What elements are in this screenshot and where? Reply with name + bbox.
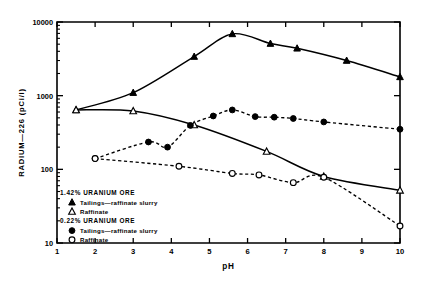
- legend-entry-label: Tailings—raffinate slurry: [80, 199, 158, 206]
- data-point-filled-circle: [321, 119, 327, 125]
- data-point-open-circle: [256, 172, 262, 178]
- legend-entry-label: Raffinate: [80, 236, 109, 243]
- series-line-open-triangle: [76, 110, 400, 191]
- chart-canvas: 1234567891010100100010000pHRADIUM—226 (p…: [0, 0, 427, 282]
- data-point-filled-circle: [397, 126, 403, 132]
- data-point-filled-circle: [229, 107, 235, 113]
- data-point-filled-triangle: [191, 53, 198, 59]
- figure-radium226-vs-ph: 1234567891010100100010000pHRADIUM—226 (p…: [0, 0, 427, 282]
- legend-marker-filled-triangle: [69, 199, 76, 205]
- x-axis-title: pH: [222, 262, 235, 271]
- x-tick-label: 3: [131, 247, 135, 256]
- data-point-filled-circle: [146, 139, 152, 145]
- x-tick-label: 10: [396, 247, 404, 256]
- data-point-open-circle: [176, 163, 182, 169]
- x-tick-label: 5: [207, 247, 212, 256]
- legend-heading: 0.22% URANIUM ORE: [60, 217, 135, 224]
- x-tick-label: 4: [169, 247, 174, 256]
- legend-marker-open-triangle: [69, 208, 76, 214]
- data-point-filled-circle: [290, 116, 296, 122]
- plot-frame: [57, 22, 400, 243]
- legend-heading: 1.42% URANIUM ORE: [60, 189, 135, 196]
- x-tick-label: 9: [360, 247, 364, 256]
- data-point-open-circle: [397, 223, 403, 229]
- y-axis-title: RADIUM—226 (pCi/l): [17, 88, 26, 177]
- x-tick-label: 1: [55, 247, 60, 256]
- series-line-filled-circle: [95, 110, 400, 159]
- series-line-filled-triangle: [76, 34, 400, 110]
- data-point-filled-circle: [210, 113, 216, 119]
- legend-marker-filled-circle: [69, 228, 75, 234]
- data-point-open-circle: [92, 156, 98, 162]
- legend-entry-label: Raffinate: [80, 208, 109, 215]
- legend-marker-open-circle: [69, 237, 75, 243]
- x-tick-label: 2: [93, 247, 97, 256]
- data-point-open-circle: [321, 174, 327, 180]
- y-tick-label: 10: [45, 239, 53, 248]
- legend-entry-label: Tailings—raffinate slurry: [80, 227, 158, 234]
- x-tick-label: 8: [322, 247, 326, 256]
- x-tick-label: 6: [245, 247, 249, 256]
- y-tick-label: 1000: [37, 92, 53, 101]
- data-point-filled-circle: [187, 122, 193, 128]
- data-point-filled-circle: [271, 114, 277, 120]
- data-point-open-circle: [229, 171, 235, 177]
- y-tick-label: 10000: [32, 18, 53, 27]
- data-point-open-circle: [290, 180, 296, 186]
- series-line-open-circle: [95, 159, 400, 226]
- data-point-filled-circle: [165, 144, 171, 150]
- x-tick-label: 7: [284, 247, 288, 256]
- y-tick-label: 100: [41, 165, 53, 174]
- data-point-filled-circle: [252, 114, 258, 120]
